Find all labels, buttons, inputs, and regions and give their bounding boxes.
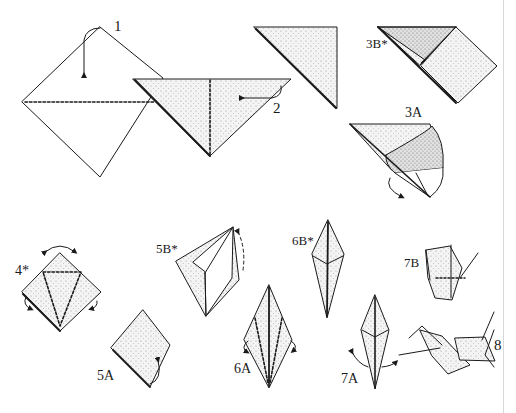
diagram-canvas xyxy=(0,0,516,413)
step-label-3b: 3B* xyxy=(366,37,388,50)
step-label-6a: 6A xyxy=(234,362,251,376)
step-2-triangle xyxy=(133,79,291,156)
step-8-finished-crane xyxy=(399,312,495,374)
step-3a-open xyxy=(350,124,443,197)
step-label-2: 2 xyxy=(273,101,281,116)
step-label-5b: 5B* xyxy=(156,242,178,255)
step-label-5a: 5A xyxy=(97,369,114,383)
step-label-7b: 7B xyxy=(404,256,419,269)
step-label-8: 8 xyxy=(494,338,502,353)
step-label-3a: 3A xyxy=(405,106,422,120)
step-label-4: 4* xyxy=(15,264,29,278)
step-label-1: 1 xyxy=(114,19,122,34)
step-7b-neck-tail xyxy=(426,245,478,300)
step-6a-bird-base xyxy=(244,285,296,388)
step-5a-kite xyxy=(111,310,170,387)
origami-diagram: 1 2 3B* 3A 4* 5A 5B* 6A 6B* 7A 7B 8 xyxy=(0,0,516,413)
step-6b-narrow xyxy=(312,220,344,318)
step-3b-squash xyxy=(378,27,497,103)
step-label-7a: 7A xyxy=(341,372,358,386)
page-edge xyxy=(503,0,504,413)
step-label-6b: 6B* xyxy=(292,234,314,247)
step-1-diamond xyxy=(22,27,163,177)
step-7a-reverse-folds xyxy=(352,295,396,389)
step-5b-petal xyxy=(176,227,244,316)
step-4-preliminary-base xyxy=(22,246,101,331)
